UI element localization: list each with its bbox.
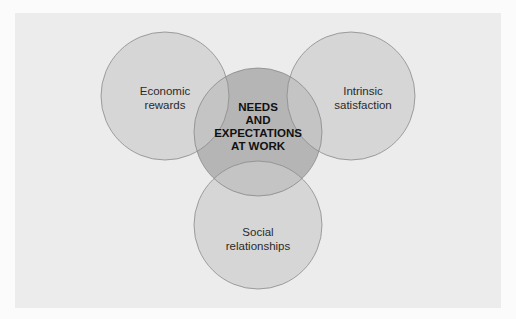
label-line: rewards	[125, 98, 205, 112]
label-line: Economic	[125, 84, 205, 98]
venn-diagram	[0, 0, 516, 319]
label-economic-rewards: Economic rewards	[125, 84, 205, 112]
label-line: AND	[208, 114, 308, 127]
label-line: AT WORK	[208, 140, 308, 153]
label-line: satisfaction	[318, 98, 408, 112]
label-needs-and-expectations: NEEDS AND EXPECTATIONS AT WORK	[208, 101, 308, 153]
label-line: Social	[213, 225, 303, 239]
label-line: EXPECTATIONS	[208, 127, 308, 140]
label-social-relationships: Social relationships	[213, 225, 303, 253]
label-intrinsic-satisfaction: Intrinsic satisfaction	[318, 84, 408, 112]
label-line: Intrinsic	[318, 84, 408, 98]
label-line: NEEDS	[208, 101, 308, 114]
label-line: relationships	[213, 239, 303, 253]
